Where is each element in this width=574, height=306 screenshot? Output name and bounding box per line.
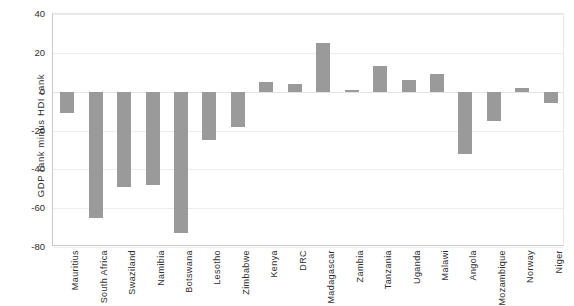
x-axis-tick-label: Botswana (184, 250, 194, 293)
y-axis-tick-label: -80 (5, 241, 45, 252)
x-axis-tick-label-text: Malawi (440, 250, 450, 280)
y-axis-tick-label: -20 (5, 124, 45, 135)
bar (259, 82, 273, 92)
x-axis-tick-label: Norway (525, 250, 535, 283)
bar (174, 92, 188, 234)
x-axis-tick-label-text: DRC (298, 250, 308, 271)
bar (515, 88, 529, 92)
gridline (53, 247, 563, 248)
bar (430, 74, 444, 91)
y-axis-tick-label: 0 (5, 85, 45, 96)
x-axis-tick-label: Madagascar (326, 250, 336, 304)
x-axis-tick-label: Kenya (269, 250, 279, 278)
bar (487, 92, 501, 121)
x-axis-tick-labels: MauritiusSouth AfricaSwazilandNamibiaBot… (52, 250, 564, 303)
x-axis-tick-label: Lesotho (212, 250, 222, 285)
y-axis-tick-label: 20 (5, 46, 45, 57)
x-axis-tick-label: Malawi (440, 250, 450, 280)
bar (544, 92, 558, 104)
x-axis-tick-label-text: Uganda (412, 250, 422, 284)
x-axis-tick-label-text: Mauritius (70, 250, 80, 290)
bar (146, 92, 160, 185)
y-axis-tick-label: 40 (5, 8, 45, 19)
x-axis-tick-label: Zambia (355, 250, 365, 282)
x-axis-tick-label-text: Kenya (269, 250, 279, 278)
x-axis-tick-label: Uganda (412, 250, 422, 284)
bar (117, 92, 131, 187)
x-axis-tick-label-text: Zambia (355, 250, 365, 282)
bar (202, 92, 216, 141)
x-axis-tick-label-text: Niger (554, 250, 564, 274)
x-axis-tick-label-text: Zimbabwe (241, 250, 251, 295)
bar (89, 92, 103, 218)
bars-layer (53, 14, 563, 245)
bar (316, 43, 330, 92)
bar (288, 84, 302, 92)
plot-area (52, 13, 564, 246)
x-axis-tick-label: Tanzania (383, 250, 393, 289)
bar (231, 92, 245, 127)
x-axis-tick-label: Namibia (156, 250, 166, 286)
x-axis-tick-label: Mozambique (497, 250, 507, 306)
x-axis-tick-label-text: Botswana (184, 250, 194, 293)
x-axis-tick-label: South Africa (99, 250, 109, 303)
x-axis-tick-label: Niger (554, 250, 564, 274)
y-axis-tick-label: -40 (5, 163, 45, 174)
x-axis-tick-label-text: South Africa (99, 250, 109, 303)
x-axis-tick-label-text: Namibia (156, 250, 166, 286)
bar (402, 80, 416, 92)
x-axis-tick-label-text: Mozambique (497, 250, 507, 306)
x-axis-tick-label-text: Norway (525, 250, 535, 283)
x-axis-tick-label: Mauritius (70, 250, 80, 290)
x-axis-tick-label-text: Madagascar (326, 250, 336, 304)
x-axis-tick-label-text: Lesotho (212, 250, 222, 285)
x-axis-tick-label-text: Angola (468, 250, 478, 280)
x-axis-tick-label: Zimbabwe (241, 250, 251, 295)
x-axis-tick-label: Angola (468, 250, 478, 280)
x-axis-tick-label-text: Swaziland (127, 250, 137, 295)
x-axis-tick-label: DRC (298, 250, 308, 271)
x-axis-tick-label: Swaziland (127, 250, 137, 295)
bar (373, 66, 387, 91)
bar (345, 90, 359, 92)
x-axis-tick-label-text: Tanzania (383, 250, 393, 289)
y-axis-tick-label: -60 (5, 202, 45, 213)
bar (458, 92, 472, 154)
bar (60, 92, 74, 113)
